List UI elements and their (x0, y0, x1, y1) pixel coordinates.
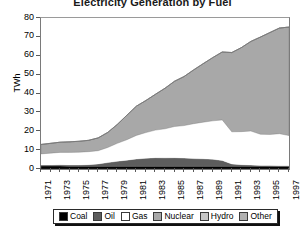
x-tick-label: 1973 (63, 180, 72, 200)
y-tick-label: 10 (24, 145, 34, 154)
x-tick-label: 1977 (101, 180, 110, 200)
x-tick-label: 1989 (215, 180, 224, 200)
y-tick-label: 50 (24, 69, 34, 78)
x-tick-label: 1991 (234, 180, 243, 200)
x-axis-labels: 1971197319751977197919811983198519871989… (0, 172, 305, 206)
x-tick-label: 1979 (120, 180, 129, 200)
legend-label: Coal (70, 212, 87, 221)
legend-swatch-icon (200, 212, 209, 221)
legend-swatch-icon (121, 212, 130, 221)
chart-title: Electricity Generation by Fuel (0, 0, 305, 8)
x-tick-label: 1985 (177, 180, 186, 200)
x-tick-label: 1987 (196, 180, 205, 200)
y-tick-label: 40 (24, 88, 34, 97)
legend-label: Hydro (211, 212, 234, 221)
y-tick-label: 30 (24, 107, 34, 116)
x-tick-label: 1995 (272, 180, 281, 200)
plot-area (40, 17, 290, 170)
chart-container: Electricity Generation by Fuel TWh 80706… (0, 0, 305, 237)
y-axis-ticks: 80706050403020100 (0, 0, 40, 185)
x-tick-label: 1975 (82, 180, 91, 200)
x-tick-label: 1993 (253, 180, 262, 200)
legend-swatch-icon (59, 212, 68, 221)
legend-label: Gas (132, 212, 148, 221)
x-tick-label: 1971 (44, 180, 53, 200)
y-tick-label: 60 (24, 50, 34, 59)
y-tick-label: 70 (24, 31, 34, 40)
legend-swatch-icon (239, 212, 248, 221)
legend-item-gas[interactable]: Gas (121, 212, 148, 221)
y-tick-label: 80 (24, 13, 34, 22)
legend-label: Nuclear (164, 212, 193, 221)
x-tick-label: 1997 (292, 180, 301, 200)
legend-label: Oil (104, 212, 114, 221)
legend-swatch-icon (153, 212, 162, 221)
chart-legend: CoalOilGasNuclearHydroOther (53, 209, 278, 224)
x-tick-label: 1983 (158, 180, 167, 200)
y-tick-label: 20 (24, 126, 34, 135)
legend-item-oil[interactable]: Oil (93, 212, 114, 221)
legend-swatch-icon (93, 212, 102, 221)
legend-label: Other (250, 212, 271, 221)
x-tick-label: 1981 (139, 180, 148, 200)
legend-item-other[interactable]: Other (239, 212, 271, 221)
stacked-area-plot (41, 18, 289, 169)
legend-item-nuclear[interactable]: Nuclear (153, 212, 193, 221)
legend-item-hydro[interactable]: Hydro (200, 212, 234, 221)
legend-item-coal[interactable]: Coal (59, 212, 87, 221)
